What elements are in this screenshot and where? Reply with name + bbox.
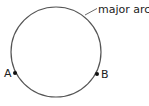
circle-diagram: major arc A B xyxy=(0,0,149,106)
point-b-label: B xyxy=(101,68,109,81)
point-a-label: A xyxy=(4,67,12,80)
point-b-dot xyxy=(95,72,99,76)
leader-line xyxy=(85,9,97,16)
circle xyxy=(11,7,101,97)
major-arc-label: major arc xyxy=(98,3,149,16)
point-a-dot xyxy=(13,71,17,75)
